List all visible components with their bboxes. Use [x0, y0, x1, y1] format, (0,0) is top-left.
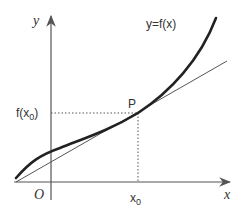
x-axis-label: x: [223, 187, 231, 202]
point-p-label: P: [128, 97, 136, 111]
y-axis-label: y: [31, 13, 40, 28]
tangent-diagram: y x O y=f(x) P f(x0) x0: [0, 0, 249, 220]
curve-label: y=f(x): [146, 17, 176, 31]
fx0-label: f(x0): [16, 106, 38, 122]
x0-label: x0: [130, 191, 141, 207]
curve-fx: [16, 18, 216, 178]
origin-label: O: [34, 187, 44, 202]
